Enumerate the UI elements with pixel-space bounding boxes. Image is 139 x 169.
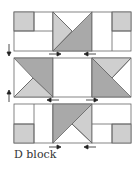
arrow-left-icon xyxy=(84,52,96,56)
unit-middle-center xyxy=(53,58,92,97)
gray-square xyxy=(112,12,131,31)
arrow-left-icon xyxy=(47,98,59,102)
bottom-row xyxy=(14,104,131,143)
arrow-down-icon xyxy=(7,44,11,56)
gray-square xyxy=(14,124,34,143)
gray-square xyxy=(14,12,34,31)
quilt-block-diagram xyxy=(0,0,139,169)
arrow-left-icon xyxy=(84,145,96,149)
diagram-caption: D block xyxy=(14,148,56,161)
arrow-up-icon xyxy=(7,90,11,102)
top-row xyxy=(14,12,131,51)
middle-row xyxy=(14,58,131,97)
arrow-right-icon xyxy=(86,98,98,102)
gray-square xyxy=(112,124,131,143)
arrow-right-icon xyxy=(49,52,61,56)
